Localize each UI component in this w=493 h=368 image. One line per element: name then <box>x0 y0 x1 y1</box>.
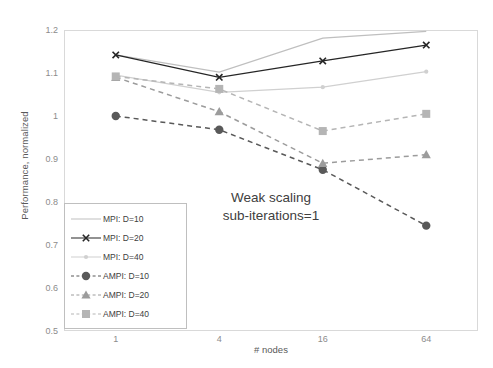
series-line <box>116 45 427 77</box>
legend-label: AMPI: D=20 <box>103 290 149 300</box>
annotation-weak-scaling: Weak scaling <box>196 190 346 205</box>
data-point-dot <box>84 254 88 258</box>
legend-marker-square <box>80 308 92 320</box>
y-tick-label: 0.7 <box>16 240 58 250</box>
legend-item[interactable]: AMPI: D=40 <box>65 304 186 323</box>
x-axis-title: # nodes <box>64 344 478 355</box>
data-point-square <box>422 110 430 118</box>
legend-marker-dot <box>80 251 92 263</box>
x-tick-label: 4 <box>189 334 249 344</box>
legend-item[interactable]: MPI: D=20 <box>65 228 186 247</box>
series-mpi-d-20 <box>113 42 430 81</box>
data-point-triangle <box>215 107 224 115</box>
legend-item[interactable]: AMPI: D=20 <box>65 285 186 304</box>
data-point-square <box>82 310 90 318</box>
data-point-triangle <box>422 150 431 158</box>
y-tick-label: 1.2 <box>16 25 58 35</box>
data-point-dot <box>321 85 325 89</box>
annotation-sub-iterations: sub-iterations=1 <box>196 208 346 223</box>
legend-swatch <box>69 270 103 282</box>
x-tick-label: 16 <box>293 334 353 344</box>
legend-swatch <box>69 251 103 263</box>
chart-legend: MPI: D=10MPI: D=20MPI: D=40AMPI: D=10AMP… <box>64 203 187 329</box>
y-tick-label: 0.9 <box>16 154 58 164</box>
legend-label: MPI: D=40 <box>103 252 143 262</box>
legend-label: AMPI: D=40 <box>103 309 149 319</box>
y-tick-label: 0.8 <box>16 197 58 207</box>
legend-label: MPI: D=10 <box>103 214 143 224</box>
y-tick-label: 1 <box>16 111 58 121</box>
data-point-dot <box>424 70 428 74</box>
data-point-square <box>112 72 120 80</box>
data-point-circle <box>112 112 120 120</box>
legend-item[interactable]: AMPI: D=10 <box>65 266 186 285</box>
legend-marker-circle <box>80 270 92 282</box>
legend-label: MPI: D=20 <box>103 233 143 243</box>
legend-line <box>71 218 101 219</box>
data-point-x <box>83 234 89 240</box>
data-point-square <box>319 127 327 135</box>
legend-swatch <box>69 213 103 225</box>
data-point-circle <box>215 126 223 134</box>
data-point-circle <box>82 271 90 279</box>
y-tick-label: 0.6 <box>16 283 58 293</box>
legend-swatch <box>69 232 103 244</box>
legend-marker-triangle <box>80 289 92 301</box>
data-point-triangle <box>81 290 90 298</box>
data-point-circle <box>422 221 430 229</box>
series-ampi-d-20 <box>111 73 431 167</box>
legend-swatch <box>69 308 103 320</box>
x-tick-label: 1 <box>86 334 146 344</box>
legend-item[interactable]: MPI: D=10 <box>65 209 186 228</box>
legend-label: AMPI: D=10 <box>103 271 149 281</box>
y-tick-label: 1.1 <box>16 68 58 78</box>
x-tick-label: 64 <box>396 334 456 344</box>
y-axis-tick-labels: 1.21.110.90.80.70.60.5 <box>14 0 58 368</box>
data-point-square <box>215 85 223 93</box>
legend-swatch <box>69 289 103 301</box>
legend-item[interactable]: MPI: D=40 <box>65 247 186 266</box>
legend-marker-x <box>80 232 92 244</box>
chart-container: Performance, normalized 1.21.110.90.80.7… <box>0 0 493 368</box>
y-tick-label: 0.5 <box>16 326 58 336</box>
